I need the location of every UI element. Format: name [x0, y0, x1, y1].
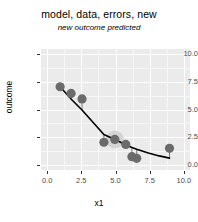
chart-subtitle: new outcome predicted [0, 23, 198, 33]
x-tick-mark [150, 171, 151, 174]
data-point [165, 144, 174, 153]
x-tick-mark [81, 171, 82, 174]
chart-container: model, data, errors, new new outcome pre… [0, 0, 198, 222]
data-point [132, 154, 141, 163]
data-point [121, 140, 130, 149]
x-tick-label: 5.0 [101, 177, 131, 185]
y-tick-mark [37, 82, 40, 83]
y-tick-mark [37, 165, 40, 166]
data-point [99, 138, 108, 147]
x-tick-mark [116, 171, 117, 174]
y-tick-label: 5.0 [166, 106, 198, 114]
x-tick-label: 2.5 [66, 177, 96, 185]
y-tick-label: 10.0 [166, 50, 198, 58]
x-tick-label: 0.0 [32, 177, 62, 185]
data-point [77, 94, 86, 103]
data-point [56, 82, 65, 91]
y-tick-label: 7.5 [166, 78, 198, 86]
y-tick-mark [37, 110, 40, 111]
x-axis-label: x1 [0, 198, 198, 208]
x-tick-label: 10.0 [169, 177, 198, 185]
data-point [110, 135, 119, 144]
y-tick-mark [37, 137, 40, 138]
y-axis-label: outcome [4, 67, 14, 127]
chart-title: model, data, errors, new [0, 8, 198, 20]
x-tick-mark [47, 171, 48, 174]
data-point [66, 89, 75, 98]
y-tick-mark [37, 54, 40, 55]
y-tick-label: 2.5 [166, 133, 198, 141]
x-tick-mark [184, 171, 185, 174]
y-tick-label: 0.0 [166, 161, 198, 169]
x-tick-label: 7.5 [135, 177, 165, 185]
